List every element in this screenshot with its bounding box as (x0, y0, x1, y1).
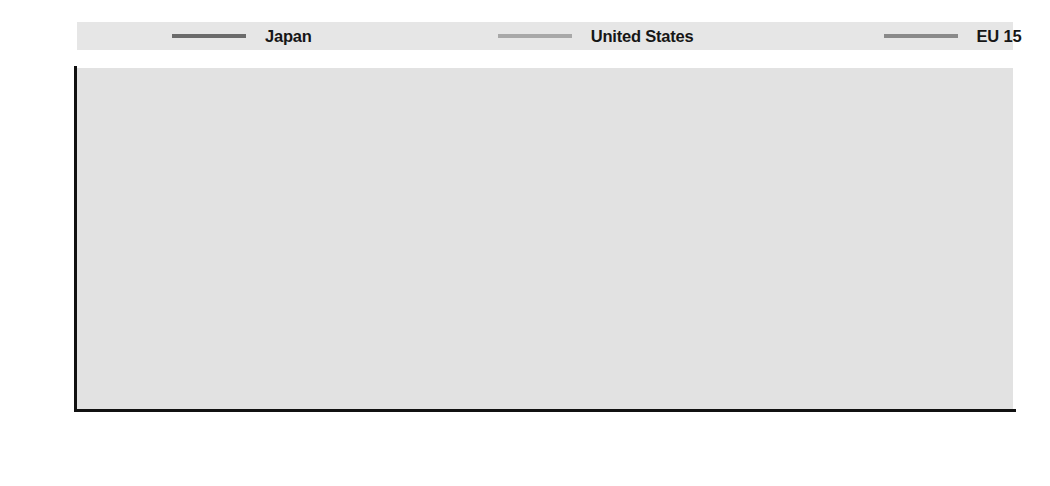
legend-entry-eu-15: EU 15 (884, 22, 1022, 50)
legend-swatch-japan (172, 34, 246, 38)
legend-entry-united-states: United States (498, 22, 694, 50)
legend-label-eu-15: EU 15 (977, 27, 1022, 46)
legend-entry-japan: Japan (172, 22, 312, 50)
x-axis-line (74, 409, 1016, 412)
chart-figure: Japan United States EU 15 (0, 0, 1050, 486)
legend-swatch-eu-15 (884, 34, 958, 38)
chart-legend: Japan United States EU 15 (77, 22, 1013, 50)
legend-label-united-states: United States (591, 27, 694, 46)
legend-label-japan: Japan (265, 27, 312, 46)
plot-canvas (77, 68, 1013, 410)
legend-swatch-united-states (498, 34, 572, 38)
y-axis-line (74, 66, 77, 412)
plot-area (77, 68, 1013, 410)
